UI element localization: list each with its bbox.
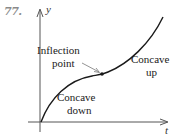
concave-down-label-line2: down xyxy=(67,104,91,117)
inflection-point-dot xyxy=(100,72,104,76)
inflection-label-line2: point xyxy=(52,57,75,70)
figure-number: 77. xyxy=(4,5,22,18)
pointer-line xyxy=(82,63,99,72)
t-axis-label: t xyxy=(165,124,168,136)
inflection-point-figure: 77. y t Inflection point Concave up Conc… xyxy=(0,0,182,138)
concave-down-label-line1: Concave xyxy=(57,91,95,104)
y-axis-label: y xyxy=(46,3,51,15)
concave-up-label-line2: up xyxy=(146,66,157,79)
inflection-label-line1: Inflection xyxy=(37,44,80,57)
pointer-arrow-icon xyxy=(94,68,100,73)
concave-up-label-line1: Concave xyxy=(131,53,169,66)
